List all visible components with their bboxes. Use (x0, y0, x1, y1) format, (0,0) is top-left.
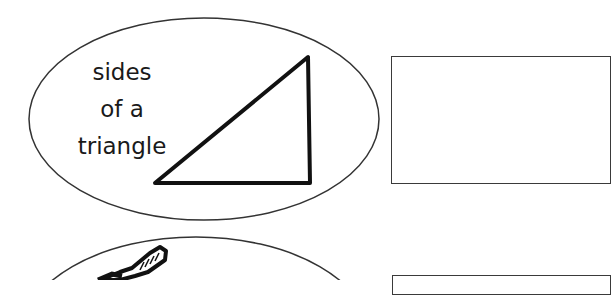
prompt-label-1: sides of a triangle (62, 54, 182, 165)
label-line: of a (62, 91, 182, 128)
prompt-ellipse-2 (21, 237, 371, 280)
answer-box-2[interactable] (392, 275, 611, 295)
label-line: sides (62, 54, 182, 91)
toothbrush-icon (98, 247, 166, 280)
label-line: triangle (62, 128, 182, 165)
answer-box-1[interactable] (391, 56, 611, 184)
